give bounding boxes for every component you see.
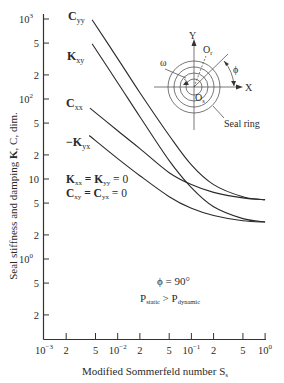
x-tick-label: 2: [211, 345, 216, 356]
y-tick-label: 2: [34, 230, 39, 241]
y-tick-label: 103: [19, 12, 34, 25]
x-tick-label: 10−2: [109, 343, 127, 356]
inset-os-label: Os: [195, 92, 205, 104]
inset-y-label: Y: [189, 30, 196, 41]
annotation-pressure: Pstatic > Pdynamic: [140, 292, 200, 305]
annotation-cxy-cyx-zero: Cxy = Cyx = 0: [66, 187, 127, 201]
x-tick-label: 5: [167, 345, 172, 356]
label-kxy: Kxy: [67, 49, 84, 65]
seal-ring-leader: [213, 106, 224, 118]
x-tick-label: 2: [137, 345, 142, 356]
x-tick-label: 5: [240, 345, 245, 356]
y-tick-label: 5: [34, 198, 39, 209]
x-tick-label: 100: [258, 343, 273, 356]
inset-omega-label: ω: [160, 57, 167, 68]
x-ticks: 10−32510−22510−125100: [35, 333, 273, 356]
or-line: [194, 56, 206, 87]
x-tick-label: 10−1: [182, 343, 200, 356]
seal-ring-inset: [154, 39, 243, 130]
inset-seal-ring-label: Seal ring: [224, 118, 260, 129]
label-cxx: Cxx: [66, 96, 83, 112]
y-tick-label: 2: [34, 310, 39, 321]
x-tick-label: 10−3: [35, 343, 53, 356]
phi-arrow-icon-bottom: [231, 81, 236, 86]
inset-x-label: X: [245, 82, 253, 93]
y-tick-label: 5: [34, 118, 39, 129]
label-kyx: −Kyx: [66, 135, 90, 151]
x-axis-label: Modified Sommerfeld number Ss: [82, 365, 228, 379]
phi-arrow-icon-top: [224, 61, 229, 66]
label-cyy: Cyy: [68, 9, 85, 25]
inset-or-label: Or: [203, 44, 213, 56]
y-tick-label: 2: [34, 150, 39, 161]
annotation-kxx-kyy-zero: Kxx = Kyy = 0: [66, 173, 128, 187]
x-tick-label: 2: [64, 345, 69, 356]
y-tick-label: 10: [29, 174, 40, 185]
x-tick-label: 5: [93, 345, 98, 356]
annotation-phi: ϕ = 90°: [157, 275, 190, 287]
y-tick-label: 5: [34, 278, 39, 289]
y-ticks: 1035210252105210052: [19, 12, 49, 321]
y-tick-label: 102: [19, 92, 34, 105]
chart: 1035210252105210052 10−32510−22510−12510…: [0, 0, 284, 383]
y-tick-label: 2: [34, 70, 39, 81]
x-arrow-icon: [236, 85, 243, 90]
y-tick-label: 100: [19, 252, 34, 265]
inset-phi-label: ϕ: [233, 64, 238, 75]
y-axis-label: Seal stiffness and damping K, C, dim.: [7, 112, 19, 280]
y-tick-label: 5: [34, 38, 39, 49]
phi-radius-line: [194, 54, 228, 87]
